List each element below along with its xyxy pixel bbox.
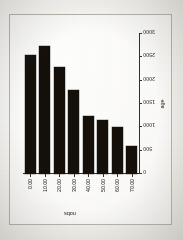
category-tick <box>44 174 45 177</box>
bar-slot <box>23 34 38 174</box>
value-tick-label: 1000 <box>143 122 155 128</box>
value-tick <box>139 173 142 174</box>
value-tick-label: 1500 <box>143 99 155 105</box>
bar <box>24 55 35 174</box>
category-tick-label: 40.00 <box>85 179 91 218</box>
value-tick <box>139 126 142 127</box>
value-tick <box>139 103 142 104</box>
value-axis-title: nobs <box>64 211 76 217</box>
category-tick <box>131 174 132 177</box>
category-tick <box>102 174 103 177</box>
chart-inner: 050010001500200025003000 0.0010.0020.003… <box>17 22 167 218</box>
bar-slot <box>66 34 81 174</box>
value-tick-label: 2500 <box>143 52 155 58</box>
value-tick <box>139 80 142 81</box>
category-tick-label: 0.00 <box>27 179 33 218</box>
category-tick <box>88 174 89 177</box>
value-tick-label: 3000 <box>143 29 155 35</box>
category-tick-label: 50.00 <box>99 179 105 218</box>
bar <box>53 67 64 174</box>
category-tick <box>73 174 74 177</box>
value-tick <box>139 33 142 34</box>
value-tick <box>139 150 142 151</box>
value-tick <box>139 56 142 57</box>
scanned-page: 050010001500200025003000 0.0010.0020.003… <box>0 0 183 240</box>
bar <box>82 116 93 174</box>
category-tick-label: 20.00 <box>56 179 62 218</box>
bar-slot <box>124 34 139 174</box>
bar <box>97 120 108 174</box>
category-tick-label: 10.00 <box>41 179 47 218</box>
category-tick <box>117 174 118 177</box>
category-tick <box>30 174 31 177</box>
bar-slot <box>110 34 125 174</box>
bar <box>39 46 50 174</box>
value-tick-label: 2000 <box>143 76 155 82</box>
bar-slot <box>52 34 67 174</box>
bar-series <box>23 34 139 174</box>
bar-slot <box>95 34 110 174</box>
bar <box>111 127 122 174</box>
rotated-chart-figure: 050010001500200025003000 0.0010.0020.003… <box>17 22 167 218</box>
value-tick-label: 0 <box>143 169 146 175</box>
bar <box>68 90 79 174</box>
category-axis-title: age <box>159 34 165 174</box>
bar-slot <box>37 34 52 174</box>
category-tick-label: 60.00 <box>114 179 120 218</box>
value-tick-label: 500 <box>143 146 152 152</box>
category-tick <box>59 174 60 177</box>
bar <box>126 146 137 174</box>
category-tick-label: 70.00 <box>128 179 134 218</box>
bar-slot <box>81 34 96 174</box>
plot-area <box>23 34 139 174</box>
